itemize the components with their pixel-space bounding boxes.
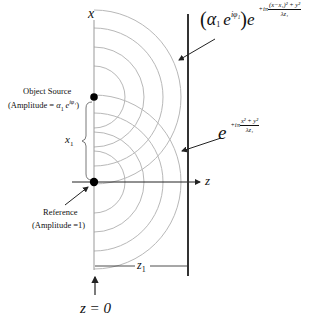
z1-label: z1: [137, 258, 146, 274]
x1-label: x1: [65, 133, 73, 148]
object-wave-equation: (α1 eiφ₁)e +iπ(x−x₁)² + y²λz₁: [200, 8, 301, 31]
reference-wave-equation: e +iπx² + y²λz₁: [218, 112, 259, 135]
z0-label: z = 0: [80, 300, 111, 317]
x-axis-label: x: [88, 6, 94, 22]
z-axis-label: z: [205, 173, 210, 189]
object-source-title: Object Source: [23, 86, 71, 96]
object-wave-arrow: [179, 39, 215, 60]
x1-brace: [82, 102, 92, 180]
hologram-diagram: [0, 0, 312, 322]
object-source-amplitude: (Amplitude = α1 eiφ₁): [8, 99, 79, 112]
reference-amplitude: (Amplitude =1): [32, 220, 85, 230]
reference-title: Reference: [43, 207, 77, 217]
reference-dot: [90, 178, 98, 186]
object-source-dot: [90, 93, 98, 101]
reference-arrow: [65, 187, 88, 205]
